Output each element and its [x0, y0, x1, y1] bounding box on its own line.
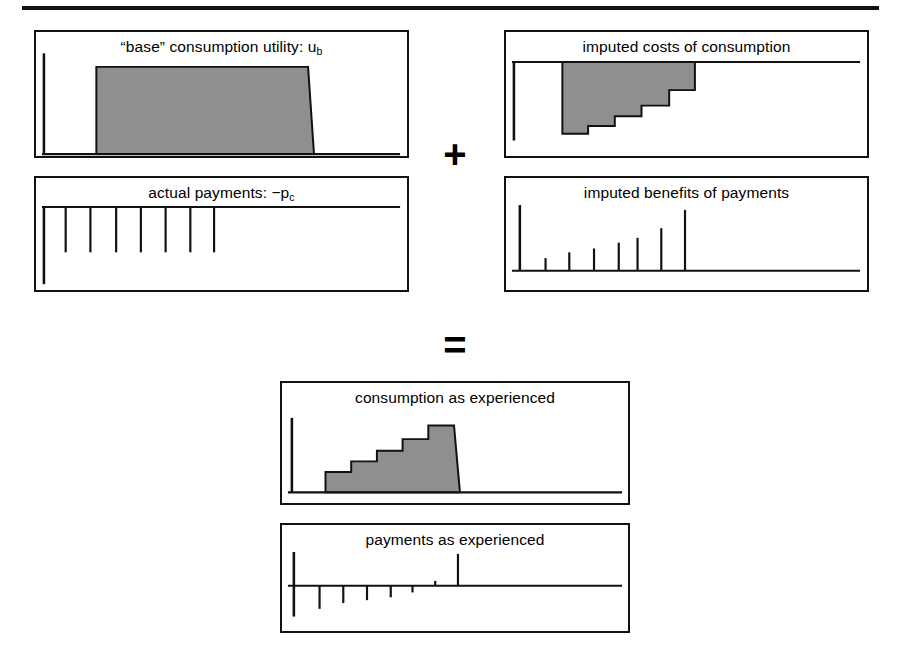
operator-equals: =: [432, 325, 478, 365]
plot-actual-payments: [36, 178, 407, 290]
operator-plus-symbol: +: [443, 132, 466, 176]
plot-imputed-benefits-of-payments: [506, 178, 867, 290]
plot-payments-as-experienced: [282, 525, 628, 631]
plot-base-consumption-utility: [36, 32, 407, 156]
panel-consumption-as-experienced: consumption as experienced: [280, 381, 630, 505]
plot-consumption-as-experienced: [282, 383, 628, 503]
panel-imputed-costs-of-consumption: imputed costs of consumption: [504, 30, 869, 158]
figure-root: “base” consumption utility: ub actual: [0, 0, 899, 663]
panel-base-consumption-utility: “base” consumption utility: ub: [34, 30, 409, 158]
operator-plus: +: [432, 134, 478, 174]
top-rule-divider: [22, 6, 879, 10]
plot-imputed-costs-of-consumption: [506, 32, 867, 156]
panel-imputed-benefits-of-payments: imputed benefits of payments: [504, 176, 869, 292]
panel-payments-as-experienced: payments as experienced: [280, 523, 630, 633]
panel-actual-payments: actual payments: −pc: [34, 176, 409, 292]
operator-equals-symbol: =: [443, 323, 466, 367]
